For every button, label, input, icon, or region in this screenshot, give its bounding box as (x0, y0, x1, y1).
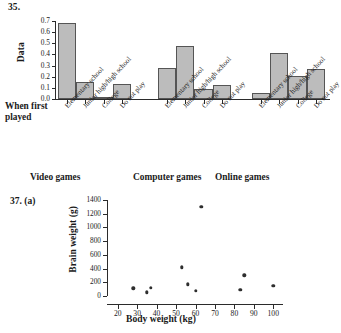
bar-y-tick-label: 0.4 (41, 51, 50, 58)
scatter-y-tick-label: 1400 (86, 196, 101, 203)
bar-y-tick (52, 77, 55, 78)
bar-y-tick (52, 88, 55, 89)
scatter-point (200, 205, 203, 208)
scatter-point (242, 274, 245, 277)
bar-group-label: Video games (30, 172, 80, 182)
bar-chart-y-axis-title: Data (16, 42, 26, 62)
figure-35-bar-chart: 35. Data When first played 0.00.10.20.30… (0, 0, 338, 192)
bar (58, 23, 76, 99)
scatter-y-tick (103, 241, 107, 242)
scatter-x-axis-title: Body weight (kg) (126, 313, 196, 324)
bar-group-label: Computer games (133, 172, 201, 182)
scatter-y-tick (103, 282, 107, 283)
scatter-x-tick-label: 100 (268, 310, 279, 318)
figure-35-number: 35. (8, 2, 20, 12)
scatter-y-tick (103, 227, 107, 228)
bar-y-tick-label: 0.3 (41, 62, 50, 69)
scatter-point (132, 286, 135, 289)
scatter-point (239, 288, 242, 291)
bar-y-tick (52, 54, 55, 55)
scatter-point (186, 283, 189, 286)
bar-y-tick-label: 0.0 (41, 95, 50, 102)
bar-y-tick-label: 0.2 (41, 73, 50, 80)
scatter-y-tick (103, 255, 107, 256)
scatter-y-tick (103, 200, 107, 201)
scatter-y-tick-label: 600 (90, 251, 101, 258)
scatter-point (145, 291, 148, 294)
scatter-y-tick-label: 400 (90, 265, 101, 272)
scatter-y-tick-label: 800 (90, 238, 101, 245)
bar-y-tick (52, 21, 55, 22)
figure-37-scatter-plot: 37. (a) Brain weight (g) 020040060080010… (0, 192, 338, 333)
scatter-y-tick-label: 200 (90, 279, 101, 286)
bar-y-tick-label: 0.1 (41, 84, 50, 91)
scatter-y-tick-label: 1200 (86, 210, 101, 217)
scatter-point (180, 265, 183, 268)
scatter-x-tick-label: 20 (114, 310, 122, 318)
bar-y-tick-label: 0.6 (41, 28, 50, 35)
bar-y-tick (52, 43, 55, 44)
scatter-y-tick-label: 0 (97, 292, 101, 299)
scatter-plot-area: 0200400600800100012001400 20304050607080… (108, 200, 283, 296)
scatter-x-tick-label: 70 (211, 310, 219, 318)
scatter-y-tick (103, 296, 107, 297)
scatter-x-tick-label: 80 (231, 310, 239, 318)
bar-chart-y-axis-line (55, 21, 56, 99)
scatter-y-tick (103, 214, 107, 215)
bar-group-label: Online games (215, 172, 269, 182)
scatter-point (194, 289, 197, 292)
bar-chart-x-axis-title: When first played (5, 101, 57, 122)
bar-y-tick (52, 99, 55, 100)
scatter-y-tick (103, 269, 107, 270)
bar-y-tick (52, 32, 55, 33)
bar-y-tick-label: 0.7 (41, 17, 50, 24)
scatter-y-axis-title: Brain weight (g) (68, 206, 78, 273)
scatter-point (272, 284, 275, 287)
scatter-x-tick-label: 90 (250, 310, 258, 318)
bar-y-tick-label: 0.5 (41, 40, 50, 47)
scatter-point (149, 286, 152, 289)
scatter-y-axis-line (107, 200, 108, 296)
scatter-y-tick-label: 1000 (86, 224, 101, 231)
figure-37-number: 37. (a) (10, 196, 35, 206)
bar-y-tick (52, 66, 55, 67)
